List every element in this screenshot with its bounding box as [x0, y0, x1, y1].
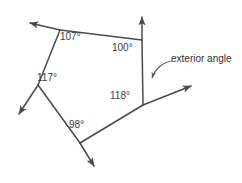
exterior-angle-callout-label: exterior angle	[171, 54, 232, 64]
exterior-rays	[19, 17, 191, 166]
ray-from-bottom	[80, 143, 94, 166]
angle-label-118: 118°	[110, 91, 130, 101]
geometry-figure: 107° 100° 118° 98° 117° exterior angle	[0, 0, 242, 183]
side-bottom-left	[38, 85, 80, 143]
angle-label-98: 98°	[69, 120, 84, 130]
ray-from-top-left	[30, 23, 60, 30]
ray-from-right	[143, 86, 191, 105]
angle-label-100: 100°	[112, 43, 133, 53]
side-right	[142, 40, 143, 105]
side-bottom-right	[80, 105, 143, 143]
exterior-angle-callout-arrow	[152, 61, 172, 78]
angle-label-117: 117°	[37, 73, 57, 83]
ray-from-left	[19, 85, 38, 114]
angle-label-107: 107°	[60, 32, 81, 42]
